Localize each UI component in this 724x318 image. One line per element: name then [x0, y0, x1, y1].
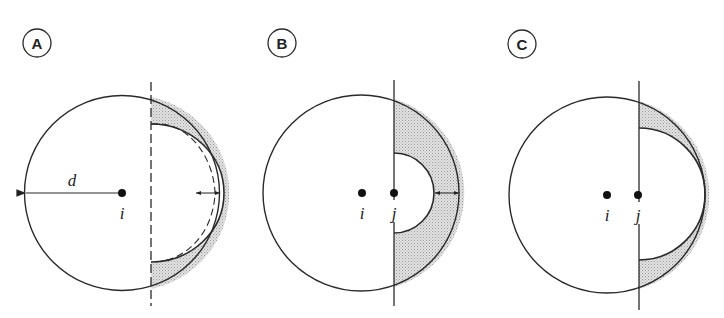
label-i-b: i — [360, 204, 365, 223]
point-j-c — [634, 191, 642, 199]
panel-b: B i j — [263, 29, 464, 306]
point-i-a — [118, 189, 126, 197]
panel-c: C i j — [508, 30, 709, 310]
svg-text:A: A — [32, 35, 43, 52]
figure-canvas: A d i B i j — [0, 0, 724, 318]
label-j-b: j — [390, 204, 397, 223]
point-i-c — [603, 191, 611, 199]
panel-label-c: C — [508, 30, 536, 58]
label-j-c: j — [634, 206, 641, 225]
svg-text:B: B — [277, 35, 288, 52]
panel-a: A d i — [23, 29, 229, 306]
label-i-c: i — [605, 206, 610, 225]
svg-text:C: C — [517, 36, 528, 53]
label-i-a: i — [120, 204, 125, 223]
point-i-b — [358, 189, 366, 197]
label-d: d — [68, 171, 77, 190]
point-j-b — [390, 189, 398, 197]
panel-label-a: A — [23, 29, 51, 57]
panel-label-b: B — [268, 29, 296, 57]
